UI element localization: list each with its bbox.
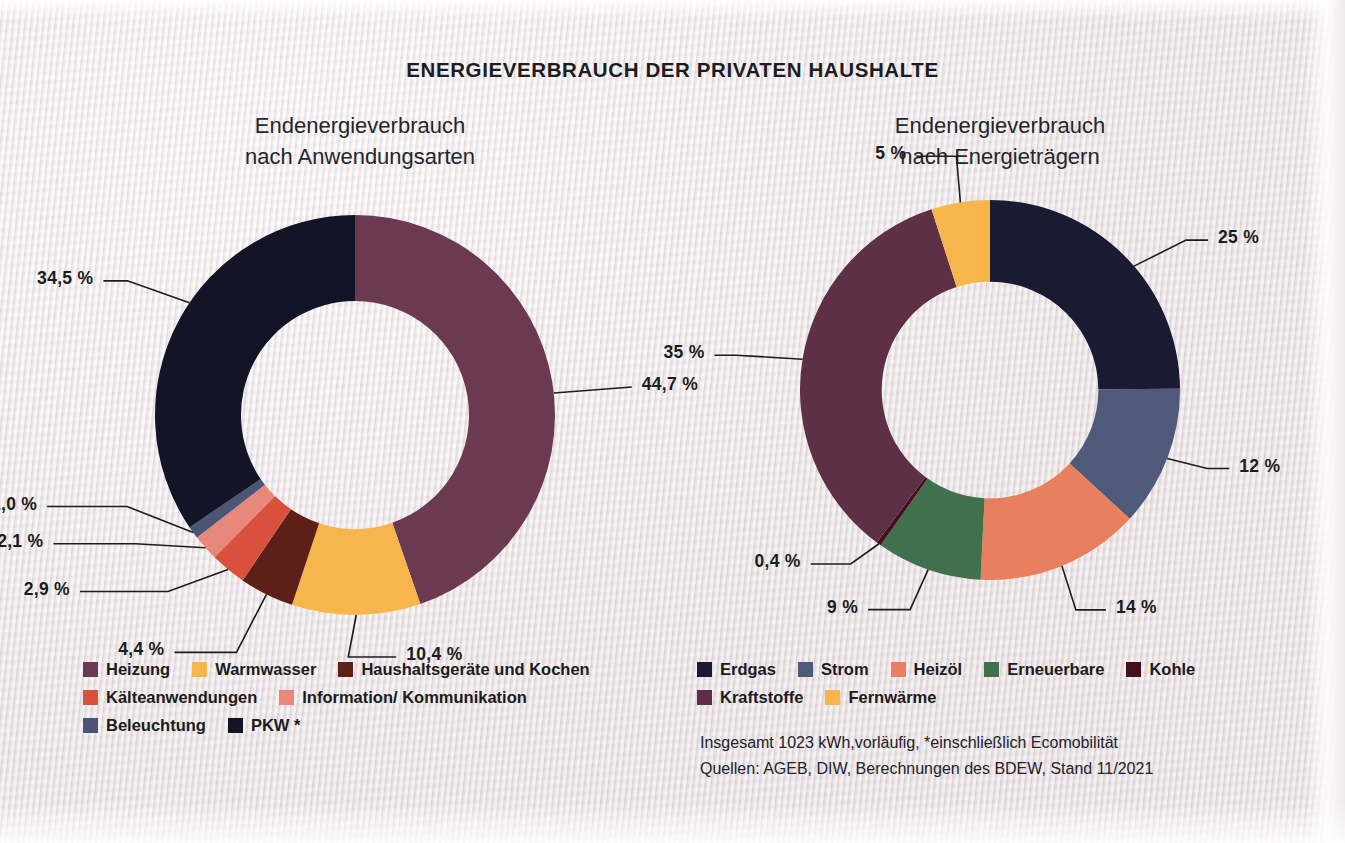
legend-item[interactable]: Beleuchtung [83, 716, 206, 735]
slice-value-label: 9 % [827, 597, 858, 618]
legend-item[interactable]: Warmwasser [192, 660, 316, 679]
legend-swatch-icon [279, 690, 294, 705]
legend-item-label: Haushaltsgeräte und Kochen [361, 660, 589, 679]
slice-value-label: 4,4 % [118, 639, 164, 660]
legend-item-label: Beleuchtung [106, 716, 206, 735]
legend-item[interactable]: Information/ Kommunikation [279, 688, 527, 707]
legend-item[interactable]: Kohle [1126, 660, 1195, 679]
legend-item[interactable]: Heizung [83, 660, 170, 679]
footnotes: Insgesamt 1023 kWh,vorläufig, *einschlie… [700, 730, 1300, 782]
slice-value-label: 0,4 % [754, 551, 800, 572]
legend-item[interactable]: Heizöl [891, 660, 963, 679]
legend-item-label: Kraftstoffe [720, 688, 803, 707]
legend-item-label: Heizung [106, 660, 170, 679]
slice-value-label: 12 % [1239, 456, 1280, 477]
legend-swatch-icon [83, 718, 98, 733]
legend-item-label: Kohle [1149, 660, 1195, 679]
legend-energietraeger: ErdgasStromHeizölErneuerbareKohleKraftst… [697, 660, 1297, 716]
legend-item[interactable]: Haushaltsgeräte und Kochen [338, 660, 589, 679]
legend-swatch-icon [697, 662, 712, 677]
legend-row: BeleuchtungPKW * [83, 716, 683, 744]
slice-value-label: 2,1 % [0, 531, 43, 552]
legend-item[interactable]: PKW * [228, 716, 301, 735]
legend-swatch-icon [825, 690, 840, 705]
legend-item[interactable]: Kraftstoffe [697, 688, 803, 707]
legend-item-label: PKW * [251, 716, 301, 735]
slice-value-label: 25 % [1218, 227, 1259, 248]
legend-swatch-icon [798, 662, 813, 677]
legend-item[interactable]: Erneuerbare [984, 660, 1104, 679]
legend-swatch-icon [83, 662, 98, 677]
legend-item[interactable]: Erdgas [697, 660, 776, 679]
legend-item[interactable]: Fernwärme [825, 688, 936, 707]
slice-value-label: 35 % [663, 342, 704, 363]
legend-row: KraftstoffeFernwärme [697, 688, 1297, 716]
legend-item-label: Information/ Kommunikation [302, 688, 527, 707]
legend-swatch-icon [83, 690, 98, 705]
legend-row: ErdgasStromHeizölErneuerbareKohle [697, 660, 1297, 688]
legend-item-label: Kälteanwendungen [106, 688, 257, 707]
legend-item-label: Erneuerbare [1007, 660, 1104, 679]
slice-value-label: 5 % [875, 143, 906, 164]
legend-swatch-icon [697, 690, 712, 705]
legend-row: HeizungWarmwasserHaushaltsgeräte und Koc… [83, 660, 683, 688]
legend-item[interactable]: Kälteanwendungen [83, 688, 257, 707]
slice-value-label: 1,0 % [0, 494, 37, 515]
legend-item-label: Erdgas [720, 660, 776, 679]
legend-anwendungsarten: HeizungWarmwasserHaushaltsgeräte und Koc… [83, 660, 683, 744]
footnote-line: Insgesamt 1023 kWh,vorläufig, *einschlie… [700, 730, 1300, 756]
legend-item-label: Warmwasser [215, 660, 316, 679]
legend-row: KälteanwendungenInformation/ Kommunikati… [83, 688, 683, 716]
legend-swatch-icon [891, 662, 906, 677]
legend-item[interactable]: Strom [798, 660, 869, 679]
slice-value-label: 44,7 % [642, 374, 698, 395]
legend-swatch-icon [984, 662, 999, 677]
legend-swatch-icon [338, 662, 353, 677]
legend-item-label: Strom [821, 660, 869, 679]
slice-value-label: 2,9 % [24, 579, 70, 600]
legend-item-label: Fernwärme [848, 688, 936, 707]
legend-swatch-icon [228, 718, 243, 733]
legend-item-label: Heizöl [914, 660, 963, 679]
slice-value-label: 34,5 % [37, 268, 93, 289]
legend-swatch-icon [1126, 662, 1141, 677]
legend-swatch-icon [192, 662, 207, 677]
slice-value-label: 14 % [1116, 597, 1157, 618]
footnote-line: Quellen: AGEB, DIW, Berechnungen des BDE… [700, 756, 1300, 782]
